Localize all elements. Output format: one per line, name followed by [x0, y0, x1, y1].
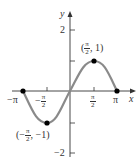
y-tick-label-2: 2 — [60, 25, 65, 35]
point-pi — [114, 88, 119, 93]
x-tick-label-pi: π — [113, 95, 118, 105]
point-neg-pi — [20, 88, 25, 93]
x-tick-label-neg-pi: −π — [7, 95, 18, 105]
paren-open: (− — [16, 129, 25, 140]
max-point-coords: , 1) — [90, 42, 103, 53]
x-tick-label-neg-half-pi: −π2 — [35, 94, 46, 109]
y-axis-label: y — [60, 9, 64, 19]
y-axis-arrow-icon — [68, 11, 73, 17]
min-point-coords: , −1) — [31, 129, 50, 140]
frac-den: 2 — [85, 49, 89, 56]
point-max — [91, 58, 96, 63]
frac-den: 2 — [91, 102, 95, 109]
min-point-label: (−π2, −1) — [16, 128, 50, 143]
x-axis-label: x — [129, 94, 133, 104]
y-tick-label-neg2: −2 — [54, 148, 65, 158]
max-point-label: (π2, 1) — [81, 41, 103, 56]
point-min — [44, 120, 49, 125]
frac-den: 2 — [26, 136, 30, 143]
x-tick-label-half-pi: π2 — [90, 94, 96, 109]
frac-den: 2 — [42, 102, 46, 109]
